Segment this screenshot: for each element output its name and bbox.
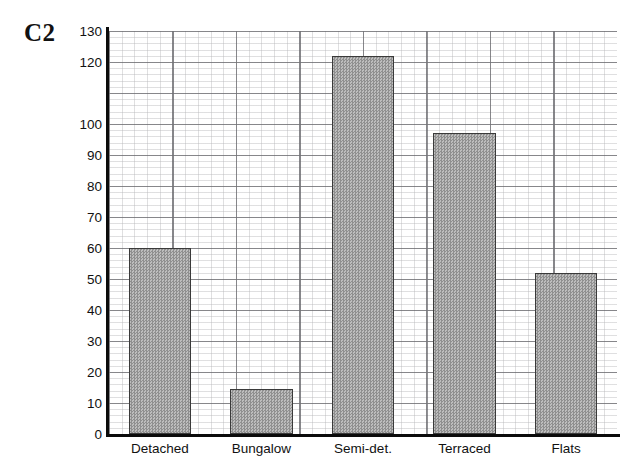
chart-title: C2 <box>24 19 56 47</box>
y-tick-label: 50 <box>68 272 102 287</box>
y-axis-tick-labels: 1301201009080706050403020100 <box>62 31 102 434</box>
y-tick-label: 70 <box>68 210 102 225</box>
y-tick-label: 60 <box>68 241 102 256</box>
x-tick-label: Bungalow <box>232 441 291 456</box>
y-tick-label: 80 <box>68 179 102 194</box>
bar-flats <box>535 273 597 434</box>
x-axis-line <box>106 434 620 437</box>
x-tick-label: Flats <box>552 441 581 456</box>
y-tick-label: 120 <box>68 55 102 70</box>
bar-detached <box>129 248 191 434</box>
x-axis-tick-labels: DetachedBungalowSemi-det.TerracedFlats <box>109 441 617 469</box>
bar-semi-det <box>332 56 394 434</box>
y-tick-label: 40 <box>68 303 102 318</box>
y-tick-label: 100 <box>68 117 102 132</box>
bar-terraced <box>433 133 495 434</box>
y-tick-label: 20 <box>68 365 102 380</box>
x-tick-label: Detached <box>131 441 189 456</box>
bar-bungalow <box>230 389 292 434</box>
y-tick-label: 0 <box>68 427 102 442</box>
y-tick-label: 30 <box>68 334 102 349</box>
y-tick-label: 90 <box>68 148 102 163</box>
x-tick-label: Terraced <box>438 441 491 456</box>
x-tick-label: Semi-det. <box>334 441 392 456</box>
y-tick-label: 130 <box>68 24 102 39</box>
bar-series <box>109 31 617 434</box>
y-tick-label: 10 <box>68 396 102 411</box>
